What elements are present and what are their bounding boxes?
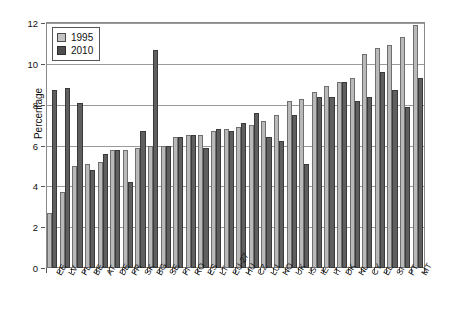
bar-group: [348, 23, 361, 268]
bar-group: [411, 23, 424, 268]
legend-item-1995: 1995: [57, 31, 93, 44]
bar-EE-2010: [52, 90, 57, 268]
bar-BE-2010: [90, 170, 95, 268]
y-tick-mark: [41, 105, 45, 106]
bar-FR-2010: [128, 182, 133, 268]
bar-group: [298, 23, 311, 268]
legend-label: 1995: [71, 32, 93, 43]
bar-group: [323, 23, 336, 268]
bar-group: [285, 23, 298, 268]
bar-chart: Percentage 024681012 EELVPLBEATDEFRSKBGS…: [0, 0, 451, 314]
bar-ES-2010: [203, 148, 208, 268]
bar-IT-2010: [329, 97, 334, 269]
bar-SE-2010: [166, 146, 171, 269]
bar-EL-2010: [380, 72, 385, 268]
bar-group: [273, 23, 286, 268]
bar-PT-2010: [405, 107, 410, 268]
dark-gray-swatch-icon: [57, 46, 66, 55]
bar-group: [386, 23, 399, 268]
y-tick-label-10: 10: [12, 58, 38, 69]
bar-RO-2010: [191, 135, 196, 268]
y-tick-mark: [41, 268, 45, 269]
y-tick-label-6: 6: [12, 140, 38, 151]
bars-layer: [46, 23, 424, 268]
y-tick-mark: [41, 146, 45, 147]
bar-group: [361, 23, 374, 268]
bar-group: [248, 23, 261, 268]
bar-AT-2010: [103, 154, 108, 268]
bar-DK-2010: [342, 82, 347, 268]
bar-group: [336, 23, 349, 268]
y-tick-label-0: 0: [12, 263, 38, 274]
bar-DE-2010: [115, 150, 120, 268]
bar-NL-2010: [355, 101, 360, 268]
bar-SI-2010: [392, 90, 397, 268]
x-axis-labels: EELVPLBEATDEFRSKBGSEFIROESLTEU-27HUCZLUN…: [46, 272, 424, 314]
legend-label: 2010: [71, 45, 93, 56]
bar-BG-2010: [153, 50, 158, 268]
bar-group: [172, 23, 185, 268]
bar-IS-2010: [304, 164, 309, 268]
bar-group: [311, 23, 324, 268]
light-gray-swatch-icon: [57, 33, 66, 42]
y-tick-mark: [41, 23, 45, 24]
y-tick-label-2: 2: [12, 222, 38, 233]
bar-UK-2010: [292, 115, 297, 268]
bar-LU-2010: [266, 137, 271, 268]
bar-group: [197, 23, 210, 268]
bar-LV-2010: [65, 88, 70, 268]
bar-group: [122, 23, 135, 268]
chart-legend: 1995 2010: [52, 27, 100, 61]
bar-SK-2010: [140, 131, 145, 268]
bar-CZ-2010: [254, 113, 259, 268]
bar-FI-2010: [178, 137, 183, 268]
bar-group: [159, 23, 172, 268]
bar-group: [222, 23, 235, 268]
bar-group: [185, 23, 198, 268]
bar-EU-27-2010: [229, 131, 234, 268]
bar-group: [374, 23, 387, 268]
y-tick-label-12: 12: [12, 18, 38, 29]
bar-group: [210, 23, 223, 268]
bar-group: [147, 23, 160, 268]
y-tick-mark: [41, 227, 45, 228]
bar-HU-2010: [241, 123, 246, 268]
bar-LT-2010: [216, 129, 221, 268]
bar-group: [109, 23, 122, 268]
bar-group: [399, 23, 412, 268]
y-tick-mark: [41, 64, 45, 65]
bar-NO-2010: [279, 141, 284, 268]
y-tick-label-8: 8: [12, 99, 38, 110]
bar-PL-2010: [77, 103, 82, 268]
bar-IE-2010: [317, 97, 322, 269]
bar-CY-2010: [367, 97, 372, 269]
legend-item-2010: 2010: [57, 44, 93, 57]
bar-group: [260, 23, 273, 268]
y-tick-label-4: 4: [12, 181, 38, 192]
bar-group: [235, 23, 248, 268]
bar-group: [134, 23, 147, 268]
bar-MT-2010: [418, 78, 423, 268]
y-tick-mark: [41, 186, 45, 187]
